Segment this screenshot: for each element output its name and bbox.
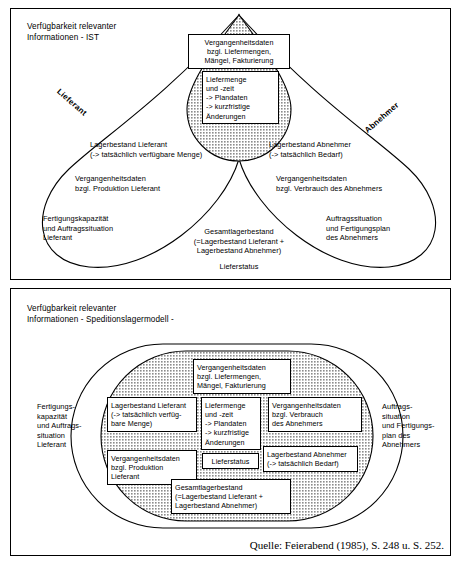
box-gesamtlagerbestand-sl: Gesamtlagerbestand (=Lagerbestand Liefer…: [171, 479, 291, 514]
label-fertigungskapazitaet-lieferant-sl: Fertigungs- kapazität und Auftrags- situ…: [37, 402, 109, 450]
label-auftragssituation-abnehmer-sl: Auftrags- situation und Fertigungs- plan…: [382, 402, 458, 450]
figure-canvas: Verfügbarkeit relevanter Informationen -…: [0, 0, 461, 564]
box-lagerbestand-lieferant-sl: Lagerbestand Lieferant (-> tatsächlich v…: [107, 397, 197, 432]
panel-speditionslagermodell: Verfügbarkeit relevanter Informationen -…: [10, 288, 451, 556]
box-liefermenge-und-zeit-sl: Liefermenge und -zeit -> Plandaten -> ku…: [201, 397, 261, 450]
label-vergangenheitsdaten-verbrauch-ist: Vergangenheitsdaten bzgl. Verbrauch des …: [276, 174, 446, 193]
box-liefermenge-und-zeit-ist: Liefermenge und -zeit -> Plandaten -> ku…: [202, 71, 279, 124]
label-auftragssituation-abnehmer-ist: Auftragssituation und Fertigungsplan des…: [326, 214, 451, 243]
label-lagerbestand-abnehmer-ist: Lagerbestand Abnehmer (-> tatsächlich Be…: [269, 140, 429, 159]
source-note: Quelle: Feierabend (1985), S. 248 u. S. …: [250, 539, 444, 551]
panel-ist: Verfügbarkeit relevanter Informationen -…: [10, 8, 451, 280]
label-lagerbestand-lieferant-ist: Lagerbestand Lieferant (-> tatsächlich v…: [90, 140, 250, 159]
label-lieferstatus-ist: Lieferstatus: [174, 262, 304, 272]
box-lagerbestand-abnehmer-sl: Lagerbestand Abnehmer (-> tatsächlich Be…: [263, 446, 358, 472]
label-vergangenheitsdaten-produktion-ist: Vergangenheitsdaten bzgl. Produktion Lie…: [75, 174, 225, 193]
box-lieferstatus-sl: Lieferstatus: [202, 453, 259, 469]
box-vergangenheitsdaten-liefermengen-sl: Vergangenheitsdaten bzgl. Liefermengen, …: [193, 359, 291, 394]
box-vergangenheitsdaten-liefermengen-ist: Vergangenheitsdaten bzgl. Liefermengen, …: [188, 34, 290, 69]
label-gesamtlagerbestand-ist: Gesamtlagerbestand (=Lagerbestand Liefer…: [154, 227, 324, 256]
box-vergangenheitsdaten-verbrauch-sl: Vergangenheitsdaten bzgl. Verbrauch des …: [268, 397, 362, 432]
panel-speditionslagermodell-title: Verfügbarkeit relevanter Informationen -…: [27, 303, 327, 325]
